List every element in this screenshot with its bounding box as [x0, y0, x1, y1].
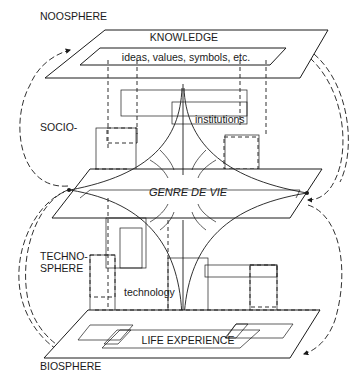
life-experience-title: LIFE EXPERIENCE	[142, 334, 235, 346]
institutions-label: institutions	[195, 113, 245, 125]
right-upper-loop-inner	[314, 54, 348, 182]
knowledge-title: KNOWLEDGE	[150, 31, 218, 43]
ideas-values-label: ideas, values, symbols, etc.	[122, 51, 250, 63]
technosphere-label-line2: SPHERE	[40, 262, 83, 274]
socio-label: SOCIO-	[40, 121, 78, 133]
biosphere-label: BIOSPHERE	[40, 360, 101, 372]
genre-de-vie-diagram: NOOSPHERE KNOWLEDGE ideas, values, symbo…	[0, 0, 362, 386]
technology-label: technology	[124, 286, 176, 298]
genre-de-vie-title: GENRE DE VIE	[149, 186, 228, 198]
technosphere-label-line1: TECHNO-	[40, 250, 88, 262]
right-lower-loop-arrow	[304, 205, 342, 354]
noosphere-label: NOOSPHERE	[40, 10, 107, 22]
